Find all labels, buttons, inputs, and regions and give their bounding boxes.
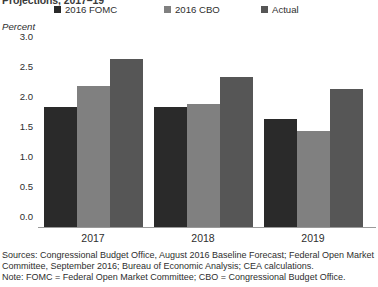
legend-swatch-icon	[164, 6, 171, 13]
chart-footnotes: Sources: Congressional Budget Office, Au…	[2, 250, 376, 283]
legend-swatch-icon	[54, 6, 61, 13]
y-axis-tick-label: 2.0	[20, 91, 33, 102]
chart-figure: Projections, 2017–19 2016 FOMC 2016 CBO …	[0, 0, 378, 287]
bar-group-2018: 2018	[150, 47, 256, 227]
legend-swatch-icon	[261, 6, 268, 13]
plot-area: 3.02.52.01.51.00.50.0 201720182019	[38, 42, 376, 228]
y-axis-tick-label: 0.0	[20, 211, 33, 222]
x-axis-tick-label: 2017	[40, 232, 146, 244]
bar-2016-cbo-2019	[297, 131, 330, 227]
legend-item-2016-cbo: 2016 CBO	[164, 4, 220, 15]
y-axis-tick-label: 1.5	[20, 121, 33, 132]
bar-2016-fomc-2019	[264, 119, 297, 227]
x-axis-line	[38, 227, 376, 228]
bar-group-2017: 2017	[40, 47, 146, 227]
bar-actual-2017	[110, 59, 143, 227]
y-axis-tick-label: 2.5	[20, 61, 33, 72]
legend-label: Actual	[272, 4, 299, 15]
y-axis-tick-label: 0.5	[20, 181, 33, 192]
x-axis-tick-label: 2019	[260, 232, 366, 244]
bar-2016-cbo-2017	[77, 86, 110, 227]
y-axis-tick-label: 1.0	[20, 151, 33, 162]
bar-2016-fomc-2017	[44, 107, 77, 227]
bar-2016-cbo-2018	[187, 104, 220, 227]
y-axis-tick-label: 3.0	[20, 31, 33, 42]
note-line: Note: FOMC = Federal Open Market Committ…	[2, 272, 376, 283]
legend-item-2016-fomc: 2016 FOMC	[54, 4, 117, 15]
legend-label: 2016 FOMC	[65, 4, 117, 15]
chart-legend: 2016 FOMC 2016 CBO Actual	[54, 4, 374, 18]
sources-line-1: Sources: Congressional Budget Office, Au…	[2, 250, 376, 261]
bar-actual-2018	[220, 77, 253, 227]
bar-2016-fomc-2018	[154, 107, 187, 227]
bar-group-2019: 2019	[260, 47, 366, 227]
sources-line-2: Committee, September 2016; Bureau of Eco…	[2, 261, 376, 272]
legend-item-actual: Actual	[261, 4, 299, 15]
legend-label: 2016 CBO	[175, 4, 220, 15]
bar-actual-2019	[330, 89, 363, 227]
x-axis-tick-label: 2018	[150, 232, 256, 244]
